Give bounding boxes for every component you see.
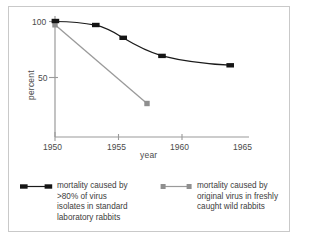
legend-marker-2b (187, 184, 192, 189)
y-tick-label-50: 50 (38, 73, 47, 83)
series-marker-lab-rabbits (226, 63, 234, 67)
series-line-lab-rabbits (55, 22, 230, 66)
series-marker-wild-rabbits (144, 101, 149, 106)
series-marker-lab-rabbits (52, 19, 60, 23)
legend-item-label-2: mortality caused by original virus in fr… (197, 181, 297, 213)
legend-marker-1a (20, 184, 28, 188)
series-marker-lab-rabbits (158, 54, 166, 58)
legend-item-label-1: mortality caused by >80% of virus isolat… (57, 181, 157, 223)
legend-marker-2a (161, 184, 166, 189)
x-tick-label-1950: 1950 (43, 142, 62, 152)
legend-marker-1b (45, 184, 53, 188)
series-marker-lab-rabbits (92, 23, 100, 27)
x-tick-label-1960: 1960 (170, 142, 189, 152)
series-line-wild-rabbits (55, 25, 147, 104)
x-tick-label-1965: 1965 (233, 142, 252, 152)
y-tick-label-100: 100 (32, 17, 46, 27)
x-axis-title: year (140, 150, 157, 160)
y-axis-title: percent (26, 70, 36, 100)
series-marker-lab-rabbits (119, 36, 127, 40)
x-tick-label-1955: 1955 (107, 142, 126, 152)
